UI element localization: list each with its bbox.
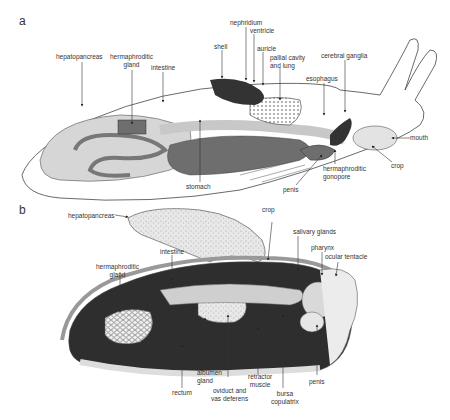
label-a-ventricle: ventricle [250,27,274,35]
label-a-stomach: stomach [186,183,211,191]
anatomy-illustration [0,0,450,420]
label-b-pharynx: pharynx [311,244,334,252]
label-a-crop: crop [391,162,404,170]
panel-b-drawing [62,209,358,388]
label-b-retractor-muscle: retractor muscle [248,373,272,388]
panel-a-letter: a [19,14,26,28]
label-b-ocular-tentacle: ocular tentacle [325,253,367,261]
label-b-oviduct-vas-deferens: oviduct and vas deferens [211,387,248,402]
label-b-crop: crop [262,206,275,214]
label-a-auricle: auricle [257,45,276,53]
label-a-mouth: mouth [410,134,428,142]
label-a-pallial-cavity: pallial cavity and lung [270,54,305,69]
label-b-salivary-glands: salivary glands [293,228,336,236]
label-a-penis: penis [283,186,299,194]
label-b-hermaphroditic-gland: hermaphroditic gland [96,263,139,278]
label-a-nephridium: nephridium [230,19,262,27]
label-a-hepatopancreas: hepatopancreas [56,53,103,61]
label-b-intestine: intestine [160,248,184,256]
label-b-rectum: rectum [172,389,192,397]
label-a-esophagus: esophagus [306,75,338,83]
label-a-cerebral-ganglia: cerebral ganglia [321,52,367,60]
label-b-albumen-gland: albumen gland [197,369,222,384]
label-a-hermaphroditic-gland: hermaphroditic gland [110,53,153,68]
label-a-hermaphroditic-gonopore: hermaphroditic gonopore [323,165,366,180]
label-a-shell: shell [214,43,227,51]
label-b-bursa-copulatrix: bursa copulatrix [271,390,299,405]
label-a-intestine: intestine [151,64,175,72]
label-b-penis: penis [309,378,325,386]
label-b-hepatopancreas: hepatopancreas [68,212,115,220]
panel-b-letter: b [19,203,26,217]
